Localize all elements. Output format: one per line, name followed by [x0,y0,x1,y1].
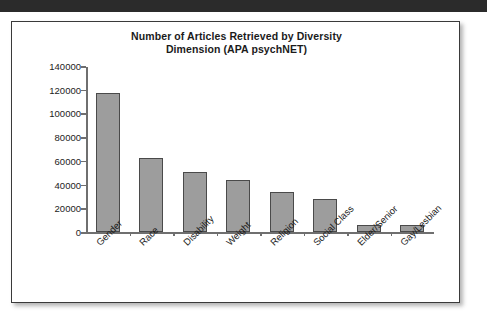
plot-area [86,66,434,234]
page-top-band [0,0,487,12]
y-axis-tick [81,185,86,187]
chart-title-line-2: Dimension (APA psychNET) [12,43,461,56]
y-axis-tick-label: 80000 [55,132,81,143]
y-axis-tick-label: 40000 [55,179,81,190]
y-axis-tick [81,232,86,234]
y-axis-tick-label: 140000 [49,61,81,72]
y-axis-tick-label: 60000 [55,155,81,166]
y-axis-line [86,67,88,233]
y-axis-tick [81,113,86,115]
y-axis-tick [81,90,86,92]
chart-title: Number of Articles Retrieved by Diversit… [12,30,461,56]
y-axis-tick-label: 100000 [49,108,81,119]
y-axis-tick-labels: 020000400006000080000100000120000140000 [26,66,81,234]
y-axis-tick-label: 120000 [49,84,81,95]
bar-gender [96,93,120,232]
y-axis-tick [81,208,86,210]
y-axis-tick [81,161,86,163]
chart-title-line-1: Number of Articles Retrieved by Diversit… [12,30,461,43]
y-axis-tick-label: 20000 [55,203,81,214]
x-axis-category-labels: GenderRaceDisabilityWeightReligionSocial… [86,236,466,306]
y-axis-tick [81,66,86,68]
chart-figure: Number of Articles Retrieved by Diversit… [11,21,460,303]
bar-race [139,158,163,232]
y-axis-tick [81,137,86,139]
